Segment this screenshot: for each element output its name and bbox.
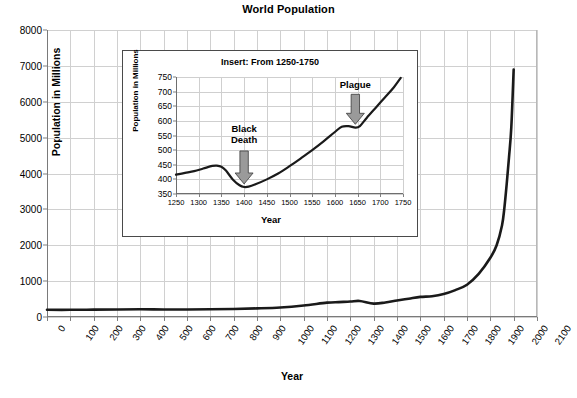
inset-x-tick: 1350 bbox=[213, 198, 230, 207]
inset-x-tick: 1700 bbox=[372, 198, 389, 207]
main-x-tick: 1800 bbox=[482, 323, 503, 347]
main-x-tick-mark bbox=[374, 317, 375, 321]
inset-title: Insert: From 1250-1750 bbox=[123, 57, 417, 67]
main-x-tick: 1100 bbox=[318, 323, 339, 346]
black-death-arrow-icon bbox=[235, 151, 253, 184]
main-x-tick-mark bbox=[117, 317, 118, 321]
inset-gridline-v bbox=[403, 77, 404, 194]
plague-annotation-label: Plague bbox=[325, 80, 385, 91]
main-x-tick: 200 bbox=[106, 323, 124, 342]
main-x-tick: 0 bbox=[55, 323, 67, 334]
inset-x-tick: 1650 bbox=[349, 198, 366, 207]
main-x-tick-mark bbox=[444, 317, 445, 321]
inset-y-tick: 600 bbox=[158, 116, 172, 126]
main-x-tick-mark bbox=[187, 317, 188, 321]
inset-x-tick-mark bbox=[176, 194, 177, 197]
inset-x-tick: 1250 bbox=[168, 198, 185, 207]
inset-x-tick-mark bbox=[312, 194, 313, 197]
main-x-tick-mark bbox=[514, 317, 515, 321]
main-x-tick: 1500 bbox=[412, 323, 433, 347]
main-x-tick: 500 bbox=[176, 323, 194, 342]
main-y-tick: 8000 bbox=[20, 25, 42, 36]
main-x-tick: 1900 bbox=[505, 323, 526, 347]
inset-y-tick: 700 bbox=[158, 87, 172, 97]
main-x-tick: 2000 bbox=[529, 323, 550, 347]
inset-x-tick-mark bbox=[358, 194, 359, 197]
inset-x-tick-mark bbox=[221, 194, 222, 197]
main-x-tick: 700 bbox=[223, 323, 241, 342]
main-y-tick: 6000 bbox=[20, 96, 42, 107]
main-x-axis-label: Year bbox=[47, 370, 537, 382]
inset-panel: Insert: From 1250-1750 Population in Mil… bbox=[122, 50, 418, 237]
main-x-tick-mark bbox=[94, 317, 95, 321]
plague-arrow-icon bbox=[346, 94, 364, 124]
black-death-annotation-label: Black Death bbox=[214, 124, 274, 146]
main-x-tick: 1000 bbox=[295, 323, 316, 347]
main-x-tick-mark bbox=[397, 317, 398, 321]
inset-y-tick: 650 bbox=[158, 101, 172, 111]
main-x-tick: 1700 bbox=[459, 323, 480, 347]
inset-y-tick: 450 bbox=[158, 160, 172, 170]
inset-y-axis-label: Population in Millions bbox=[131, 17, 140, 165]
main-x-tick-mark bbox=[47, 317, 48, 321]
main-y-tick: 5000 bbox=[20, 132, 42, 143]
main-gridline-h bbox=[47, 317, 537, 318]
inset-x-axis-label: Year bbox=[123, 214, 419, 225]
main-x-tick: 1400 bbox=[389, 323, 410, 347]
main-x-tick-mark bbox=[327, 317, 328, 321]
inset-x-tick-mark bbox=[244, 194, 245, 197]
inset-x-tick: 1500 bbox=[281, 198, 298, 207]
main-x-tick-mark bbox=[467, 317, 468, 321]
main-y-tick: 4000 bbox=[20, 168, 42, 179]
main-y-tick: 1000 bbox=[20, 276, 42, 287]
inset-y-tick: 550 bbox=[158, 131, 172, 141]
world-population-chart: World Population Population in Millions … bbox=[0, 0, 577, 398]
inset-x-tick-mark bbox=[380, 194, 381, 197]
main-x-tick-mark bbox=[304, 317, 305, 321]
main-x-tick: 1300 bbox=[365, 323, 386, 347]
main-x-tick-mark bbox=[257, 317, 258, 321]
main-y-tick: 7000 bbox=[20, 60, 42, 71]
main-x-tick: 300 bbox=[130, 323, 148, 342]
main-x-tick: 800 bbox=[246, 323, 264, 342]
main-x-tick: 1600 bbox=[435, 323, 456, 347]
main-x-tick: 100 bbox=[83, 323, 101, 342]
main-x-tick-mark bbox=[210, 317, 211, 321]
inset-x-tick-mark bbox=[335, 194, 336, 197]
chart-title: World Population bbox=[0, 3, 577, 15]
main-y-tick: 0 bbox=[36, 312, 42, 323]
main-gridline-v bbox=[537, 30, 538, 317]
main-y-tick: 3000 bbox=[20, 204, 42, 215]
main-x-tick-mark bbox=[537, 317, 538, 321]
main-x-tick-mark bbox=[140, 317, 141, 321]
inset-x-tick-mark bbox=[403, 194, 404, 197]
main-x-tick: 600 bbox=[200, 323, 218, 342]
inset-y-tick: 500 bbox=[158, 145, 172, 155]
main-x-tick: 1200 bbox=[342, 323, 363, 347]
inset-y-tick: 750 bbox=[158, 72, 172, 82]
main-x-tick-mark bbox=[350, 317, 351, 321]
inset-plot-area: 350400450500550600650700750 125013001350… bbox=[176, 77, 403, 194]
inset-x-tick: 1600 bbox=[327, 198, 344, 207]
main-y-tick: 2000 bbox=[20, 240, 42, 251]
inset-x-tick-mark bbox=[290, 194, 291, 197]
inset-x-tick-mark bbox=[199, 194, 200, 197]
inset-x-tick: 1300 bbox=[190, 198, 207, 207]
inset-x-tick: 1450 bbox=[258, 198, 275, 207]
inset-annotation-arrows bbox=[176, 77, 403, 194]
main-x-tick: 2100 bbox=[552, 323, 573, 347]
main-x-tick-mark bbox=[164, 317, 165, 321]
inset-x-tick: 1750 bbox=[395, 198, 412, 207]
main-x-tick-mark bbox=[490, 317, 491, 321]
inset-x-tick: 1400 bbox=[236, 198, 253, 207]
inset-x-tick: 1550 bbox=[304, 198, 321, 207]
main-x-tick: 900 bbox=[270, 323, 288, 342]
main-x-tick-mark bbox=[420, 317, 421, 321]
main-x-tick-mark bbox=[280, 317, 281, 321]
main-x-tick-mark bbox=[234, 317, 235, 321]
inset-y-tick: 400 bbox=[158, 174, 172, 184]
main-x-tick-mark bbox=[70, 317, 71, 321]
main-x-tick: 400 bbox=[153, 323, 171, 342]
inset-x-tick-mark bbox=[267, 194, 268, 197]
